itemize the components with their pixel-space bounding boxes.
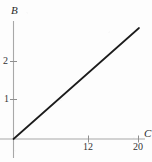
- line-chart-figure: B C 2 1 12 20: [0, 0, 152, 162]
- y-axis-label: B: [11, 5, 18, 16]
- x-tick-label-12: 12: [83, 142, 93, 152]
- y-tick-label-2: 2: [3, 56, 8, 66]
- chart-canvas: [0, 0, 152, 162]
- data-line-series-0: [14, 28, 140, 139]
- x-axis-label: C: [144, 128, 152, 139]
- y-tick-label-1: 1: [4, 94, 9, 104]
- x-tick-label-20: 20: [133, 142, 143, 152]
